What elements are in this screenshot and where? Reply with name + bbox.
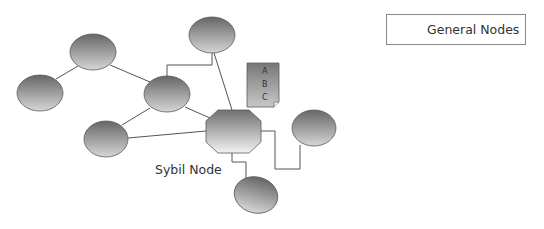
general-node: [17, 75, 63, 111]
general-node: [144, 76, 190, 112]
legend: General Nodes: [386, 14, 526, 45]
edge-n5-n3: [167, 53, 212, 77]
edge-n1-n2: [56, 66, 78, 79]
edge-n5-sybil: [214, 53, 232, 110]
general-node: [84, 121, 128, 157]
document-line-a: A: [262, 65, 268, 78]
general-node: [230, 172, 282, 218]
edge-n4-sybil: [128, 131, 206, 138]
general-node: [189, 17, 235, 53]
legend-label: General Nodes: [427, 22, 519, 37]
sybil-node: [206, 110, 261, 153]
edge-n3-sybil: [185, 107, 210, 118]
edge-sybil-n7: [232, 153, 246, 179]
edge-n1-n3: [110, 65, 150, 82]
general-node: [70, 34, 116, 70]
document-line-b: B: [262, 78, 268, 91]
edge-n3-n4: [122, 108, 150, 125]
document-line-c: C: [262, 91, 268, 104]
document-text: A B C: [262, 65, 268, 104]
edge-sybil-n6: [261, 131, 300, 169]
sybil-node-label: Sybil Node: [155, 162, 222, 177]
general-node: [292, 110, 336, 146]
